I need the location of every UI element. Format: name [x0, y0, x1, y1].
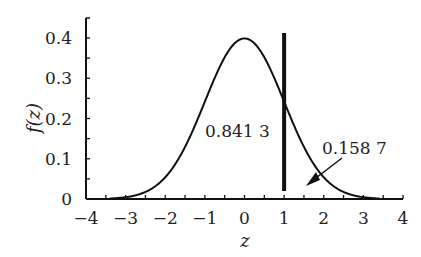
y-axis-label: f(z) — [23, 103, 44, 135]
x-axis-label: z — [239, 230, 250, 251]
x-tick-label: −3 — [113, 208, 138, 228]
y-tick-label: 0.1 — [45, 149, 72, 169]
y-tick-label: 0.3 — [45, 68, 72, 88]
y-tick-label: 0 — [61, 189, 72, 209]
right-area-label: 0.158 7 — [322, 138, 387, 158]
x-tick-label: −4 — [73, 208, 98, 228]
x-tick-label: 2 — [318, 208, 329, 228]
x-tick-label: 3 — [358, 208, 369, 228]
x-tick-label: −1 — [192, 208, 217, 228]
left-area-label: 0.841 3 — [205, 121, 270, 141]
x-tick-label: 0 — [239, 208, 250, 228]
density-curve — [110, 38, 379, 198]
y-tick-label: 0.4 — [45, 28, 72, 48]
y-tick-label: 0.2 — [45, 109, 72, 129]
normal-distribution-chart: −4−3−2−10123400.10.20.30.4 0.841 3 0.158… — [0, 0, 421, 257]
x-tick-label: −2 — [153, 208, 178, 228]
x-tick-label: 1 — [279, 208, 290, 228]
x-tick-label: 4 — [398, 208, 409, 228]
